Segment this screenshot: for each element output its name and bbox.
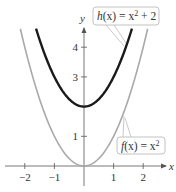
x-tick-label: 2 bbox=[140, 171, 146, 183]
h-callout: h(x) = x2 + 2 bbox=[93, 7, 159, 46]
y-tick-label: 1 bbox=[73, 130, 79, 142]
h-callout-pointer bbox=[106, 25, 126, 46]
y-tick-label: 3 bbox=[73, 71, 79, 83]
x-tick-label: −1 bbox=[49, 171, 61, 183]
h-callout-label: h(x) = x2 + 2 bbox=[97, 9, 156, 23]
x-tick-label: −2 bbox=[19, 171, 31, 183]
f-callout-label: f(x) = x2 bbox=[121, 139, 160, 153]
x-tick-label: 1 bbox=[111, 171, 117, 183]
x-axis-label: x bbox=[168, 160, 174, 172]
f-callout: f(x) = x2 bbox=[117, 116, 165, 154]
y-tick-label: 4 bbox=[73, 41, 79, 53]
f-callout-pointer bbox=[123, 116, 131, 137]
graph-plot: −2−112134 x y h(x) = x2 + 2 f(x) = x2 bbox=[0, 0, 176, 192]
y-axis-label: y bbox=[79, 12, 85, 24]
tick-labels: −2−112134 bbox=[19, 41, 146, 183]
